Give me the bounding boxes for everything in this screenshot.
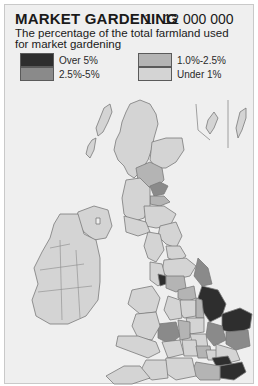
wales-south — [116, 336, 160, 358]
gloucestershire — [162, 340, 184, 358]
grampian — [150, 138, 184, 168]
cumbria — [144, 232, 164, 262]
oxfordshire — [182, 340, 198, 356]
humberside — [194, 258, 212, 286]
suffolk — [226, 330, 250, 350]
british-isles-map — [0, 0, 258, 386]
warwickshire — [178, 320, 190, 340]
lough-neagh — [96, 218, 100, 224]
staffordshire — [164, 296, 182, 320]
outer-hebrides — [96, 104, 112, 136]
wiltshire-hampshire — [164, 358, 196, 380]
shetland — [236, 108, 246, 138]
lothian — [150, 196, 170, 206]
orkney — [206, 112, 218, 134]
wales-north — [128, 286, 160, 314]
